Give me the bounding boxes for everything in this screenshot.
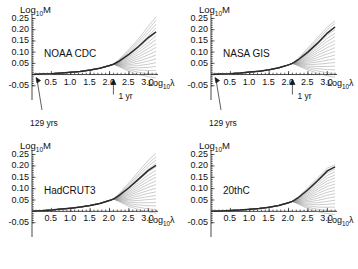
- x-tick-label: 2.0: [103, 78, 116, 87]
- y-tick-label: 0.25: [180, 150, 208, 159]
- x-tick-label: 2.5: [122, 78, 135, 87]
- y-tick-label: 0.20: [1, 161, 29, 170]
- x-tick-label: 1.0: [243, 78, 256, 87]
- panel-1: Log10M NASA GIS Log10λ 0.250.200.150.100…: [179, 0, 358, 135]
- y-tick-label: 0.10: [180, 184, 208, 193]
- panel-2: Log10M HadCRUT3 Log10λ 0.250.200.150.100…: [0, 135, 179, 269]
- y-tick-label: 0.25: [180, 14, 208, 23]
- x-tick-label: 0.5: [223, 214, 236, 223]
- y-tick-label: 0.10: [180, 48, 208, 57]
- x-tick-label: 2.0: [282, 78, 295, 87]
- y-tick-label: 0.15: [180, 36, 208, 45]
- x-tick-label: 2.0: [103, 214, 116, 223]
- y-tick-label: 0.20: [180, 25, 208, 34]
- y-tick-label: -0.05: [1, 218, 29, 227]
- y-tick-label: -0.05: [1, 81, 29, 90]
- y-tick-label: 0.05: [1, 59, 29, 68]
- annotation-1-yr: 1 yr: [118, 91, 132, 101]
- x-tick-label: 1.0: [64, 78, 77, 87]
- y-tick-label: -0.05: [180, 218, 208, 227]
- y-tick-label: -0.05: [180, 81, 208, 90]
- x-tick-label: 2.5: [301, 78, 314, 87]
- x-tick-label: 1.5: [83, 214, 96, 223]
- annotation-129-yrs: 129 yrs: [30, 118, 58, 128]
- y-tick-label: 0.20: [180, 161, 208, 170]
- annotation-129-yrs: 129 yrs: [209, 118, 237, 128]
- y-tick-label: 0.15: [1, 173, 29, 182]
- figure-panel-grid: Log10M NOAA CDC Log10λ 0.250.200.150.100…: [0, 0, 358, 269]
- x-tick-label: 0.5: [223, 78, 236, 87]
- x-tick-label: 2.0: [282, 214, 295, 223]
- panel-0: Log10M NOAA CDC Log10λ 0.250.200.150.100…: [0, 0, 179, 135]
- x-tick-label: 2.5: [301, 214, 314, 223]
- x-tick-label: 1.5: [262, 214, 275, 223]
- y-tick-label: 0.15: [1, 36, 29, 45]
- y-tick-label: 0.25: [1, 150, 29, 159]
- y-tick-label: 0.10: [1, 48, 29, 57]
- x-tick-label: 3.0: [141, 78, 154, 87]
- x-tick-label: 0.5: [44, 214, 57, 223]
- annotation-1-yr: 1 yr: [297, 91, 311, 101]
- x-tick-label: 3.0: [320, 214, 333, 223]
- x-tick-label: 1.5: [83, 78, 96, 87]
- x-tick-label: 1.0: [64, 214, 77, 223]
- y-tick-label: 0.25: [1, 14, 29, 23]
- panel-3: Log10M 20thC Log10λ 0.250.200.150.100.05…: [179, 135, 358, 269]
- x-tick-label: 3.0: [320, 78, 333, 87]
- x-tick-label: 1.0: [243, 214, 256, 223]
- y-tick-label: 0.05: [1, 196, 29, 205]
- y-tick-label: 0.10: [1, 184, 29, 193]
- x-tick-label: 1.5: [262, 78, 275, 87]
- y-tick-label: 0.05: [180, 196, 208, 205]
- x-tick-label: 0.5: [44, 78, 57, 87]
- x-tick-label: 2.5: [122, 214, 135, 223]
- y-tick-label: 0.05: [180, 59, 208, 68]
- y-tick-label: 0.15: [180, 173, 208, 182]
- x-tick-label: 3.0: [141, 214, 154, 223]
- y-tick-label: 0.20: [1, 25, 29, 34]
